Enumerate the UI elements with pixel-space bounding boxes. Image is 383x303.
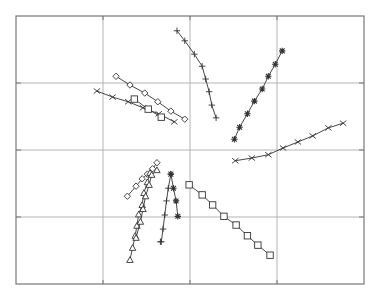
series-plus-lower xyxy=(157,171,174,245)
x-marker xyxy=(309,133,315,138)
star-marker xyxy=(272,61,278,67)
square-marker xyxy=(221,213,227,219)
x-marker xyxy=(171,119,177,124)
diamond-marker xyxy=(182,116,188,122)
plus-marker xyxy=(202,76,208,82)
triangle-marker xyxy=(127,257,133,263)
x-marker xyxy=(94,88,100,93)
square-marker xyxy=(158,114,164,120)
series-x-right xyxy=(232,121,346,164)
star-marker xyxy=(231,136,237,142)
series-triangle-lower-b xyxy=(133,167,160,240)
square-marker xyxy=(145,106,151,112)
series-plus-upper xyxy=(174,28,220,122)
square-marker xyxy=(199,192,205,198)
series-group xyxy=(94,28,347,263)
plus-marker xyxy=(209,102,215,108)
star-marker xyxy=(251,98,257,104)
diamond-marker xyxy=(142,90,148,96)
series-square-upper xyxy=(131,96,164,120)
square-marker xyxy=(267,252,273,258)
star-marker xyxy=(236,124,242,130)
plus-marker xyxy=(157,239,163,245)
triangle-marker xyxy=(135,211,141,217)
plus-marker xyxy=(160,226,166,232)
x-marker xyxy=(109,95,115,100)
plus-marker xyxy=(163,198,169,204)
series-diamond-upper xyxy=(113,73,188,122)
plus-marker xyxy=(199,63,205,69)
star-marker xyxy=(279,48,285,54)
triangle-marker xyxy=(129,245,135,251)
star-marker xyxy=(175,213,181,219)
plus-marker xyxy=(191,51,197,57)
diamond-marker xyxy=(113,73,119,79)
square-marker xyxy=(186,182,192,188)
grid-lines xyxy=(16,16,364,284)
square-marker xyxy=(244,233,250,239)
square-marker xyxy=(255,242,261,248)
star-marker xyxy=(259,86,265,92)
x-marker xyxy=(125,99,131,104)
plus-marker xyxy=(213,115,219,121)
x-marker xyxy=(295,139,301,144)
diamond-marker xyxy=(154,160,160,166)
star-marker xyxy=(265,73,271,79)
star-marker xyxy=(173,198,179,204)
square-marker xyxy=(233,222,239,228)
series-square-lower xyxy=(186,182,273,259)
plus-marker xyxy=(206,89,212,95)
square-marker xyxy=(131,96,137,102)
x-marker xyxy=(340,121,346,126)
square-marker xyxy=(209,202,215,208)
diamond-marker xyxy=(155,99,161,105)
x-marker xyxy=(325,125,331,130)
diamond-marker xyxy=(168,108,174,114)
series-line xyxy=(171,174,178,216)
star-marker xyxy=(244,111,250,117)
star-marker xyxy=(170,185,176,191)
line-chart xyxy=(0,0,383,303)
series-line xyxy=(160,174,170,242)
star-marker xyxy=(168,171,174,177)
